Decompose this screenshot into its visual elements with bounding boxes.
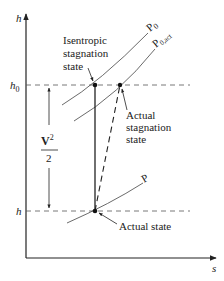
actual-state-pointer (99, 213, 117, 224)
isentropic-stagnation-point (93, 83, 98, 88)
h-s-diagram: h s h0 h V2 2 P0 P0,act P Isentropic sta… (0, 0, 224, 281)
isobar-p-label: P (139, 171, 150, 184)
actual-stagnation-label: Actual stagnation state (126, 109, 174, 145)
isobar-p0-label: P0 (144, 18, 161, 35)
actual-state-label: Actual state (119, 220, 171, 232)
isentropic-stagnation-pointer (88, 68, 93, 81)
h0-label: h0 (10, 79, 20, 94)
x-axis-label: s (212, 262, 216, 274)
kinetic-numerator: V2 (41, 133, 54, 148)
actual-stagnation-point (118, 83, 122, 87)
isentropic-stagnation-label: Isentropic stagnation state (63, 34, 111, 72)
actual-stagnation-pointer (122, 89, 127, 110)
actual-state-point (93, 209, 98, 214)
kinetic-denominator: 2 (46, 152, 52, 164)
h-label: h (16, 205, 22, 217)
y-axis-label: h (16, 12, 22, 24)
